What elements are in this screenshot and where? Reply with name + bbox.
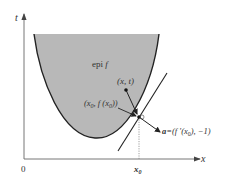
origin-label: 0 (21, 165, 26, 174)
point-x0-label: (x0, f (x0)) (84, 99, 118, 109)
point-xt-label: (x, t) (117, 77, 134, 86)
x-axis-label: x (201, 154, 205, 164)
epigraph-region (34, 34, 159, 138)
point-xt (124, 88, 128, 92)
x0-tick-label: x0 (134, 165, 142, 175)
epigraph-diagram: t x 0 x0 epi f (x, t) (x0, f (x0)) a=(f … (0, 0, 238, 184)
normal-vector-label: a=(f ′(x0), −1) (162, 127, 211, 137)
epigraph-label: epi f (92, 60, 108, 69)
y-axis-label: t (15, 13, 18, 23)
